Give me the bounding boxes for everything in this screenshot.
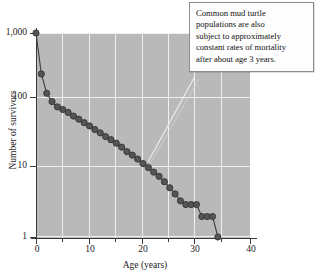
y-axis-line [36, 28, 37, 243]
annotation-line-1: Common mud turtle [196, 8, 307, 19]
gridline-x-15 [115, 33, 116, 238]
x-tick-label-20: 20 [138, 245, 148, 255]
gridline-y-100 [36, 97, 250, 98]
x-tick-5 [62, 238, 63, 242]
chart-figure: 1,000 100 10 1 0 10 20 30 40 Age (years)… [0, 0, 321, 276]
y-tick-10 [30, 166, 36, 167]
gridline-x-20 [142, 33, 143, 238]
x-tick-25 [168, 238, 169, 242]
x-axis-line [31, 238, 257, 239]
x-tick-label-10: 10 [85, 245, 95, 255]
annotation-callout: Common mud turtle populations are also s… [189, 2, 314, 72]
x-axis-title: Age (years) [0, 260, 290, 270]
annotation-line-3: subject to approximately [196, 31, 307, 42]
annotation-line-5: after about age 3 years. [196, 54, 307, 65]
y-tick-1000 [30, 33, 36, 34]
gridline-x-10 [89, 33, 90, 238]
y-axis-title: Number of survivors [8, 65, 18, 195]
x-tick-label-0: 0 [35, 245, 40, 255]
x-tick-label-40: 40 [246, 245, 256, 255]
x-tick-15 [115, 238, 116, 242]
annotation-line-4: constant rates of mortality [196, 42, 307, 53]
y-tick-label-10: 10 [18, 161, 28, 171]
gridline-x-25 [168, 33, 169, 238]
x-tick-35 [221, 238, 222, 242]
annotation-line-2: populations are also [196, 19, 307, 30]
y-tick-100 [30, 97, 36, 98]
y-tick-label-1000: 1,000 [6, 28, 27, 38]
gridline-y-10 [36, 166, 250, 167]
gridline-y-1 [36, 236, 250, 237]
gridline-x-5 [62, 33, 63, 238]
x-tick-label-30: 30 [190, 245, 200, 255]
y-tick-label-1: 1 [22, 232, 27, 242]
